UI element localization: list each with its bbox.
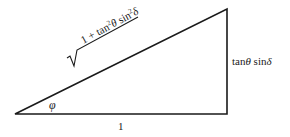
angle-phi-label: φ	[49, 99, 56, 111]
opp-part1: tan	[232, 55, 245, 67]
adjacent-side-label: 1	[118, 121, 124, 132]
triangle-diagram	[0, 0, 290, 137]
opp-delta: δ	[266, 55, 271, 67]
opp-part2: sin	[251, 55, 267, 67]
opposite-side-label: tanθ sinδ	[232, 56, 272, 67]
